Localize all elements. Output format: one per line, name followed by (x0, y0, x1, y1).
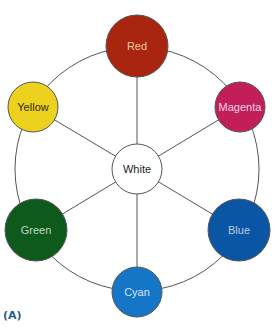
node-red-label: Red (127, 40, 147, 52)
node-cyan: Cyan (112, 267, 162, 317)
node-red: Red (106, 15, 168, 77)
color-nodes: RedMagentaBlueCyanGreenYellowWhite (5, 15, 270, 317)
node-blue-label: Blue (228, 224, 250, 236)
node-white-center-label: White (123, 163, 151, 175)
node-magenta: Magenta (215, 82, 265, 132)
color-wheel-diagram: RedMagentaBlueCyanGreenYellowWhite (0, 0, 277, 327)
node-yellow: Yellow (8, 82, 58, 132)
node-green-label: Green (21, 224, 52, 236)
panel-label: (A) (3, 309, 22, 322)
node-cyan-label: Cyan (124, 286, 150, 298)
node-magenta-label: Magenta (219, 101, 263, 113)
node-white-center: White (112, 144, 162, 194)
node-green: Green (5, 199, 67, 261)
node-blue: Blue (208, 199, 270, 261)
node-yellow-label: Yellow (17, 101, 48, 113)
